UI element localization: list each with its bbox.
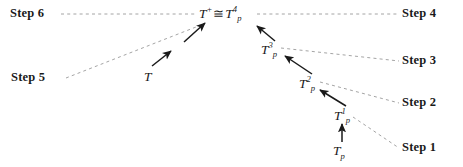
node-t: T: [144, 70, 152, 84]
step3-to-tp3: [281, 48, 399, 61]
node-tp1-subscript: p: [346, 115, 350, 125]
node-tp2-subscript: p: [311, 83, 315, 93]
arrow-t-to-chain: [152, 51, 171, 66]
node-tp1-base: T: [334, 108, 342, 123]
node-tp3-subscript: p: [273, 49, 277, 59]
arrow-group: [152, 23, 346, 142]
node-t-plus-iso-tp4: T+≅T4p: [199, 5, 241, 23]
diagram-edges-layer: [0, 0, 463, 167]
node-tp2: T2p: [299, 75, 315, 93]
node-t-base: T: [144, 69, 152, 84]
step5-to-t: [66, 27, 196, 78]
node-tp-base: T: [333, 143, 341, 158]
node-tp1: T1p: [334, 107, 350, 125]
dashed-connector-group: [61, 14, 399, 148]
node-tp3-base: T: [261, 42, 269, 57]
label-step-5: Step 5: [11, 71, 45, 84]
label-step-2: Step 2: [402, 96, 436, 109]
step1-to-tp1: [353, 117, 399, 148]
step2-to-tp2: [320, 82, 399, 103]
node-tp4-subscript: p: [237, 13, 241, 23]
node-tp-subscript: p: [341, 151, 345, 161]
arrow-tp2-to-tp3: [285, 56, 312, 74]
node-tp: Tp: [333, 144, 345, 160]
arrow-tp3-to-tp4: [257, 26, 275, 41]
node-t-plus-base: T: [199, 6, 207, 21]
label-step-6: Step 6: [10, 7, 44, 20]
label-step-1: Step 1: [402, 141, 436, 154]
node-tp4-base: T: [225, 6, 233, 21]
label-step-3: Step 3: [402, 54, 436, 67]
arrow-chain-upper: [184, 23, 205, 42]
arrow-tp1-to-tp2: [320, 90, 346, 106]
label-step-4: Step 4: [402, 7, 436, 20]
node-tp3: T3p: [261, 41, 277, 59]
commutative-diagram: Step 6 Step 5 Step 4 Step 3 Step 2 Step …: [0, 0, 463, 167]
iso-symbol: ≅: [212, 7, 225, 21]
node-tp2-base: T: [299, 76, 307, 91]
